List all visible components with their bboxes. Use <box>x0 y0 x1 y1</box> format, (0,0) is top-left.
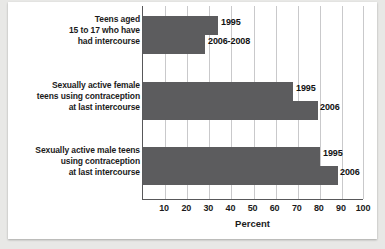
plot-area: 1995 2006-2008 1995 2006 1995 2006 <box>142 6 363 200</box>
category-label-male-contraception: Sexually active male teens using contrac… <box>8 145 140 179</box>
category-label-line: had intercourse <box>8 36 140 47</box>
bar-label-teens-1995: 1995 <box>221 17 241 27</box>
bar-label-teens-2006-2008: 2006-2008 <box>208 36 250 46</box>
bar-label-female-2006: 2006 <box>320 102 340 112</box>
category-label-line: teens using contraception <box>8 91 140 102</box>
gridline-100 <box>363 6 364 199</box>
category-label-line: Teens aged <box>8 14 140 25</box>
category-label-teens-intercourse: Teens aged 15 to 17 who have had interco… <box>8 14 140 48</box>
bar-label-male-1995: 1995 <box>323 148 343 158</box>
bar-female-1995 <box>143 82 293 101</box>
category-label-line: at last intercourse <box>8 167 140 178</box>
category-label-female-contraception: Sexually active female teens using contr… <box>8 80 140 114</box>
bar-teens-1995 <box>143 16 218 35</box>
category-label-line: 15 to 17 who have <box>8 25 140 36</box>
bar-label-female-1995: 1995 <box>296 83 316 93</box>
bar-label-male-2006: 2006 <box>340 167 360 177</box>
bar-male-1995 <box>143 147 320 166</box>
category-label-line: Sexually active male teens <box>8 145 140 156</box>
category-label-line: using contraception <box>8 156 140 167</box>
xtick-100: 100 <box>350 203 376 213</box>
bar-male-2006 <box>143 166 338 185</box>
category-label-line: Sexually active female <box>8 80 140 91</box>
chart-figure: Teens aged 15 to 17 who have had interco… <box>8 2 377 239</box>
bar-teens-2006-2008 <box>143 35 205 54</box>
x-axis-label: Percent <box>142 218 363 229</box>
bar-female-2006 <box>143 101 318 120</box>
category-label-line: at last intercourse <box>8 102 140 113</box>
